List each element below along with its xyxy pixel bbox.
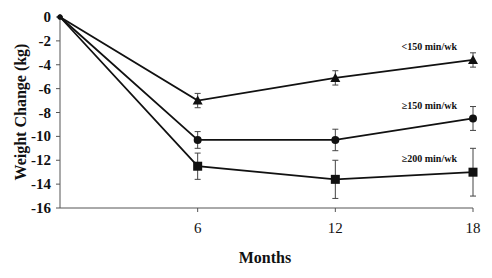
square-marker — [193, 162, 202, 171]
circle-marker — [331, 136, 339, 144]
series-labels: <150 min/wk≥150 min/wk≥200 min/wk — [402, 41, 458, 164]
weight-change-chart: 0-2-4-6-8-10-12-14-1661218 <150 min/wk≥1… — [0, 0, 492, 278]
y-tick-label: -10 — [31, 128, 51, 144]
square-marker — [331, 175, 340, 184]
x-tick-label: 12 — [328, 220, 343, 236]
y-tick-label: -2 — [39, 33, 52, 49]
y-tick-label: -6 — [39, 81, 52, 97]
circle-marker — [194, 136, 202, 144]
y-tick-label: -8 — [39, 105, 52, 121]
origin-marker — [58, 15, 63, 20]
y-tick-label: -12 — [31, 152, 51, 168]
series-line — [60, 17, 473, 101]
square-marker — [469, 168, 478, 177]
series-label-circle: ≥150 min/wk — [402, 100, 458, 111]
x-tick-label: 18 — [466, 220, 481, 236]
circle-marker — [469, 114, 477, 122]
series-line — [60, 17, 473, 140]
x-tick-label: 6 — [194, 220, 202, 236]
triangle-marker — [468, 55, 478, 64]
y-tick-label: -4 — [39, 57, 52, 73]
y-axis-title: Weight Change (kg) — [12, 44, 30, 181]
x-axis-title: Months — [239, 249, 291, 266]
y-tick-label: 0 — [44, 9, 52, 25]
y-tick-label: -14 — [31, 176, 51, 192]
series-label-square: ≥200 min/wk — [402, 153, 458, 164]
series-label-triangle: <150 min/wk — [402, 41, 458, 52]
y-tick-label: -16 — [31, 200, 51, 216]
series-triangle — [58, 15, 479, 108]
